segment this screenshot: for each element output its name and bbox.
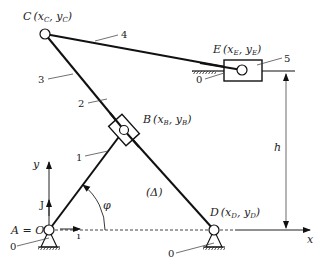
label-b: B(xB, yB) bbox=[142, 113, 191, 127]
label-delta: (Δ) bbox=[146, 186, 163, 199]
label-a-o: A = O bbox=[10, 224, 44, 237]
label-c: C(xC, yC) bbox=[23, 10, 72, 24]
label-h: h bbox=[274, 141, 281, 154]
joint-b bbox=[120, 126, 129, 135]
angle-phi-arc bbox=[83, 185, 105, 230]
label-d: D(xD, yD) bbox=[209, 206, 260, 220]
label-link-5: 5 bbox=[284, 53, 290, 64]
label-e: E(xE, yE) bbox=[212, 43, 261, 57]
label-ground-e: 0 bbox=[196, 74, 202, 85]
label-x-axis: x bbox=[307, 233, 314, 246]
label-link-1: 1 bbox=[76, 152, 82, 163]
label-ground-a: 0 bbox=[10, 241, 16, 252]
label-ground-d: 0 bbox=[168, 248, 174, 259]
label-j-vector: J bbox=[39, 199, 44, 210]
label-i-vector: ı bbox=[77, 230, 80, 241]
link-1 bbox=[49, 130, 124, 230]
label-y-axis: y bbox=[32, 158, 40, 171]
joint-c bbox=[40, 29, 50, 39]
label-link-4: 4 bbox=[121, 29, 127, 40]
label-link-3: 3 bbox=[38, 74, 44, 85]
mechanism-diagram: C(xC, yC) E(xE, yE) B(xB, yB) D(xD, yD) … bbox=[0, 0, 326, 266]
label-phi: φ bbox=[103, 199, 111, 212]
ground-support-d bbox=[203, 225, 225, 250]
joint-e bbox=[237, 65, 247, 75]
label-link-2: 2 bbox=[78, 98, 84, 109]
